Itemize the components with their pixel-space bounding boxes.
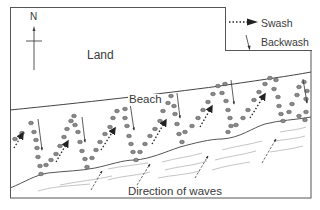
legend: Swash Backwash bbox=[225, 7, 312, 51]
beach-label: Beach bbox=[128, 94, 163, 106]
swash-arrow-icon bbox=[226, 15, 260, 31]
wave-lines bbox=[38, 127, 306, 191]
legend-label-backwash: Backwash bbox=[261, 36, 309, 48]
legend-item-swash: Swash bbox=[226, 15, 312, 31]
legend-item-backwash: Backwash bbox=[226, 34, 312, 50]
north-label: N bbox=[30, 12, 37, 22]
backwash-arrow-icon bbox=[226, 34, 260, 52]
legend-label-swash: Swash bbox=[261, 17, 293, 29]
wave-direction-arrows bbox=[91, 139, 276, 190]
swash-backwash-zone bbox=[13, 76, 310, 176]
north-arrow-icon bbox=[26, 26, 42, 70]
wave-direction-label: Direction of waves bbox=[128, 186, 222, 198]
land-label: Land bbox=[87, 49, 114, 61]
